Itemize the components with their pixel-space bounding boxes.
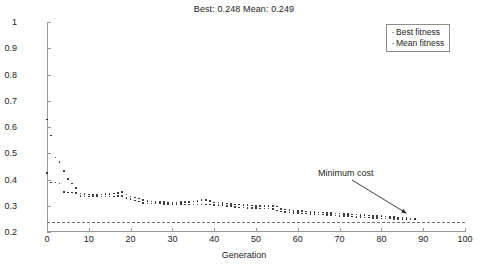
annotation-minimum-cost-label: Minimum cost (318, 168, 374, 178)
data-point (351, 214, 353, 216)
data-point (71, 183, 73, 185)
legend-label-mean-fitness: Mean fitness (396, 38, 444, 49)
data-point (167, 202, 169, 204)
data-point (63, 191, 65, 193)
y-tick-label: 0.7 (0, 96, 17, 106)
data-point (46, 172, 48, 174)
data-point (372, 217, 374, 219)
data-point (142, 199, 144, 201)
data-point (230, 205, 232, 207)
x-tick-mark (256, 228, 257, 232)
y-tick-label: 0.8 (0, 70, 17, 80)
data-point (184, 204, 186, 206)
x-tick-label: 70 (325, 234, 355, 244)
data-point (414, 218, 416, 220)
x-tick-label: 60 (283, 234, 313, 244)
data-point (368, 215, 370, 217)
data-point (188, 201, 190, 203)
data-point (255, 207, 257, 209)
data-point (80, 195, 82, 197)
data-point (172, 203, 174, 205)
data-point (243, 204, 245, 206)
y-tick-label: 1 (0, 17, 17, 27)
data-point (234, 204, 236, 206)
x-tick-mark (340, 228, 341, 232)
data-point (67, 192, 69, 194)
data-point (75, 187, 77, 189)
data-point (88, 194, 90, 196)
data-point (280, 208, 282, 210)
data-point (372, 215, 374, 217)
data-point (218, 204, 220, 206)
y-tick-mark (47, 180, 51, 181)
x-tick-mark (381, 228, 382, 232)
chart-legend[interactable]: · Best fitness · Mean fitness (386, 24, 450, 52)
figure-canvas: Best: 0.248 Mean: 0.249 Total cost rate … (0, 0, 488, 273)
data-point (167, 203, 169, 205)
y-tick-mark (47, 127, 51, 128)
data-point (188, 204, 190, 206)
x-tick-label: 30 (157, 234, 187, 244)
chart-title: Best: 0.248 Mean: 0.249 (0, 4, 488, 14)
x-tick-label: 40 (199, 234, 229, 244)
x-tick-label: 90 (408, 234, 438, 244)
data-point (226, 203, 228, 205)
x-tick-mark (214, 228, 215, 232)
x-tick-label: 10 (74, 234, 104, 244)
data-point (397, 217, 399, 219)
x-tick-label: 20 (116, 234, 146, 244)
data-point (230, 203, 232, 205)
data-point (213, 202, 215, 204)
data-point (205, 199, 207, 201)
data-point (310, 211, 312, 213)
data-point (117, 195, 119, 197)
x-tick-mark (47, 228, 48, 232)
data-point (126, 197, 128, 199)
data-point (272, 205, 274, 207)
data-point (301, 210, 303, 212)
data-point (50, 182, 52, 184)
data-point (343, 215, 345, 217)
y-tick-mark (47, 75, 51, 76)
data-point (297, 210, 299, 212)
data-point (393, 218, 395, 220)
data-point (92, 194, 94, 196)
x-tick-mark (89, 228, 90, 232)
data-point (389, 216, 391, 218)
y-tick-mark (47, 232, 51, 233)
x-tick-label: 50 (241, 234, 271, 244)
data-point (326, 214, 328, 216)
data-point (297, 212, 299, 214)
data-point (213, 204, 215, 206)
data-point (117, 192, 119, 194)
data-point (67, 178, 69, 180)
data-point (113, 196, 115, 198)
legend-label-best-fitness: Best fitness (396, 27, 440, 38)
data-point (75, 192, 77, 194)
data-point (234, 206, 236, 208)
data-point (330, 212, 332, 214)
data-point (163, 203, 165, 205)
y-tick-label: 0.4 (0, 175, 17, 185)
x-tick-mark (465, 228, 466, 232)
legend-item-best-fitness: · Best fitness (390, 27, 444, 38)
data-point (301, 213, 303, 215)
data-point (163, 201, 165, 203)
data-point (238, 207, 240, 209)
data-point (96, 194, 98, 196)
y-tick-mark (47, 48, 51, 49)
minimum-cost-reference-line (47, 222, 465, 223)
data-point (343, 213, 345, 215)
x-tick-label: 80 (366, 234, 396, 244)
data-point (142, 202, 144, 204)
data-point (63, 170, 65, 172)
data-point (393, 216, 395, 218)
data-point (88, 196, 90, 198)
data-point (159, 201, 161, 203)
data-point (121, 195, 123, 197)
data-point (251, 207, 253, 209)
data-point (376, 217, 378, 219)
y-tick-label: 0.6 (0, 122, 17, 132)
x-tick-mark (131, 228, 132, 232)
x-tick-label: 100 (450, 234, 480, 244)
